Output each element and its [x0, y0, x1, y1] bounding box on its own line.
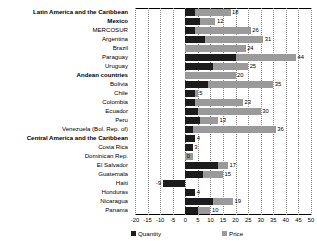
- bar-value-label: 15: [223, 170, 231, 178]
- legend-swatch-quantity-icon: [131, 231, 136, 236]
- category-label: Dominican Rep.: [0, 153, 131, 159]
- bar-value-label: 3: [193, 143, 198, 151]
- x-tick-label: 40: [283, 216, 289, 224]
- bar-segment-quantity: [185, 99, 195, 106]
- bar-row: 19: [135, 198, 311, 205]
- category-label: Peru: [0, 117, 131, 123]
- category-label: Venezuela (Bol. Rep. of): [0, 126, 131, 132]
- x-tick-label: 0: [184, 216, 187, 224]
- bar-segment-price: [193, 126, 276, 133]
- bar-row: 20: [135, 72, 311, 79]
- bar-segment-price: [185, 72, 235, 79]
- category-label: Haiti: [0, 180, 131, 186]
- bar-segment-price: [200, 18, 215, 25]
- legend-label-price: Price: [229, 230, 243, 237]
- bar-segment-quantity: [163, 180, 186, 187]
- bar-segment-price: [218, 162, 228, 169]
- category-label: Nicaragua: [0, 198, 131, 204]
- x-tick-label: 20: [232, 216, 238, 224]
- bar-value-label: 18: [231, 8, 239, 16]
- bar-segment-quantity: [185, 207, 198, 214]
- bar-segment-price: [213, 63, 248, 70]
- bar-row: 25: [135, 63, 311, 70]
- bar-segment-quantity: [185, 108, 198, 115]
- x-axis-tick-labels: -20-15-10-505101520253035404550: [135, 216, 311, 226]
- bar-segment-price: [208, 81, 273, 88]
- bar-value-label: 12: [215, 17, 223, 25]
- bar-row: 3: [135, 144, 311, 151]
- bar-row: 31: [135, 36, 311, 43]
- bar-value-label: 4: [195, 134, 200, 142]
- chart-legend: Quantity Price: [0, 230, 317, 242]
- category-label: Andean countries: [0, 72, 131, 78]
- bar-row: 44: [135, 54, 311, 61]
- bar-row: 4: [135, 135, 311, 142]
- x-tick-label: 30: [257, 216, 263, 224]
- bar-row: 0: [135, 153, 311, 160]
- bar-segment-quantity: [185, 81, 208, 88]
- x-tick-label: 25: [245, 216, 251, 224]
- x-tick-label: 35: [270, 216, 276, 224]
- x-tick-label: -10: [156, 216, 164, 224]
- gridline-50: [311, 8, 312, 215]
- category-label: Colombia: [0, 99, 131, 105]
- bar-row: 13: [135, 117, 311, 124]
- bar-segment-quantity: [185, 36, 205, 43]
- x-tick-label: -15: [143, 216, 151, 224]
- bar-segment-quantity: [185, 63, 213, 70]
- bar-segment-price: [198, 207, 211, 214]
- bar-row: 12: [135, 18, 311, 25]
- x-tick-label: 10: [207, 216, 213, 224]
- bar-segment-quantity: [185, 18, 200, 25]
- bar-row: 10: [135, 207, 311, 214]
- bar-segment-quantity: [185, 54, 235, 61]
- bar-row: 26: [135, 27, 311, 34]
- bar-segment-price: [185, 45, 245, 52]
- bar-segment-price: [205, 36, 263, 43]
- bar-value-label: 36: [276, 125, 284, 133]
- bar-value-label: 35: [273, 80, 281, 88]
- legend-item-quantity: Quantity: [131, 230, 161, 237]
- bar-value-label: 10: [210, 206, 218, 214]
- bar-value-label: 25: [248, 62, 256, 70]
- x-tick-label: 5: [196, 216, 199, 224]
- bar-row: 23: [135, 99, 311, 106]
- category-label: Uruguay: [0, 63, 131, 69]
- bar-segment-quantity: [185, 171, 203, 178]
- bar-segment-quantity: [185, 162, 218, 169]
- category-label: Central America and the Caribbean: [0, 135, 131, 141]
- bar-segment-quantity: [185, 144, 193, 151]
- bar-segment-quantity: [185, 198, 213, 205]
- bar-value-label: 26: [251, 26, 259, 34]
- bar-segment-price: [195, 27, 250, 34]
- category-label: Latin America and the Caribbean: [0, 9, 131, 15]
- category-label: Mexico: [0, 18, 131, 24]
- bar-value-label: 24: [246, 44, 254, 52]
- bar-segment-price: [203, 171, 223, 178]
- category-label: MERCOSUR: [0, 27, 131, 33]
- bar-value-label: 19: [233, 197, 241, 205]
- bar-value-label: -9: [156, 179, 163, 187]
- bar-value-label: 0: [185, 152, 190, 160]
- bar-value-label: 13: [218, 116, 226, 124]
- category-label: Argentina: [0, 36, 131, 42]
- bar-segment-price: [198, 108, 261, 115]
- bar-row: 35: [135, 81, 311, 88]
- bar-row: 4: [135, 189, 311, 196]
- bar-segment-price: [236, 54, 296, 61]
- category-label: Bolivia: [0, 81, 131, 87]
- bar-segment-quantity: [185, 27, 195, 34]
- x-tick-label: 15: [220, 216, 226, 224]
- category-label-column: Latin America and the CaribbeanMexicoMER…: [0, 8, 131, 215]
- legend-swatch-price-icon: [222, 231, 227, 236]
- bar-row: 18: [135, 9, 311, 16]
- category-label: Costa Rica: [0, 144, 131, 150]
- bar-value-label: 20: [236, 71, 244, 79]
- bar-value-label: 17: [228, 161, 236, 169]
- category-label: Chile: [0, 90, 131, 96]
- bar-value-label: 23: [243, 98, 251, 106]
- legend-label-quantity: Quantity: [138, 230, 161, 237]
- category-label: Paraguay: [0, 54, 131, 60]
- x-tick-label: 50: [308, 216, 314, 224]
- bar-segment-quantity: [185, 117, 200, 124]
